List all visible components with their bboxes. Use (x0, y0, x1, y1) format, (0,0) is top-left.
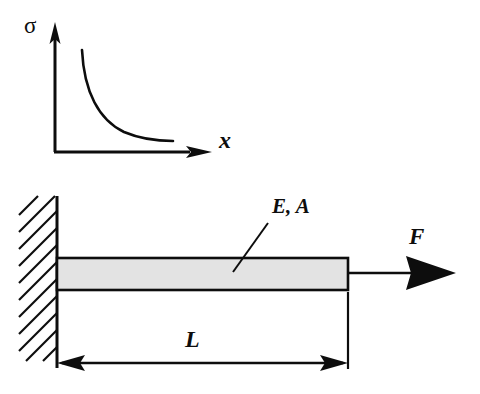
beam-body (57, 258, 348, 290)
hatched-wall-fixed-support-icon (19, 196, 57, 361)
beam-modulus-area-label: E, A (272, 196, 310, 217)
stress-curve (82, 50, 173, 141)
stress-plot-group (50, 22, 213, 158)
length-label: L (185, 327, 200, 351)
engineering-diagram (0, 0, 480, 394)
figure-root: σ x E, A F L (0, 0, 480, 394)
beam-assembly-group (19, 196, 456, 371)
x-axis-label: x (219, 128, 231, 152)
y-axis-label-sigma: σ (24, 14, 36, 37)
force-label: F (409, 225, 424, 248)
arrow-right-solid-icon (406, 256, 456, 290)
